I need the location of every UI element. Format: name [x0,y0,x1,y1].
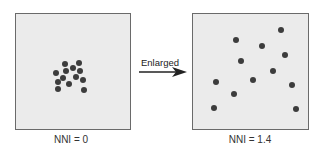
point-marker [76,60,82,66]
point-marker [60,75,66,81]
point-marker [55,86,61,92]
point-marker [213,79,219,85]
left-caption: NNI = 0 [31,134,111,145]
point-marker [66,81,72,87]
point-marker [293,106,299,112]
point-marker [73,74,79,80]
point-marker [81,87,87,93]
point-marker [55,79,61,85]
arrow-right-icon [138,66,188,78]
point-marker [282,52,288,58]
right-caption: NNI = 1.4 [210,134,290,145]
point-marker [80,77,86,83]
point-marker [77,68,83,74]
point-marker [231,91,237,97]
point-marker [259,43,265,49]
point-marker [238,58,244,64]
dispersed-pattern-panel [192,13,309,130]
point-marker [211,105,217,111]
point-marker [70,65,76,71]
point-marker [270,68,276,74]
point-marker [53,70,59,76]
point-marker [289,82,295,88]
point-marker [62,61,68,67]
point-marker [233,37,239,43]
point-marker [250,77,256,83]
point-marker [63,68,69,74]
clustered-pattern-panel [15,13,131,130]
point-marker [278,27,284,33]
